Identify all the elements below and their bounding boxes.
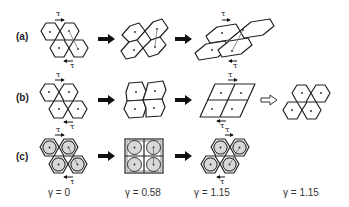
row-c-stage-0-hex-disk-cluster (40, 139, 87, 173)
row-c-stage-2-top-stress: τ (225, 125, 233, 135)
row-a-stage-2-top-stress: τ (221, 9, 230, 20)
arrow-right (175, 151, 192, 161)
row-b-stage-3-recovered-hex-cluster (283, 85, 330, 119)
arrow-right (175, 95, 192, 105)
arrow-right (175, 34, 192, 44)
row-label-a: (a) (16, 31, 28, 42)
strain-label-stage-0: γ = 0 (48, 187, 70, 198)
tau-label: τ (56, 125, 61, 134)
row-b-stage-0-hex-cluster (40, 84, 87, 118)
row-label-c: (c) (16, 151, 28, 162)
tau-label: τ (221, 9, 226, 18)
tau-label: τ (56, 70, 61, 79)
row-label-b: (b) (16, 92, 29, 103)
tau-label: τ (70, 177, 75, 186)
row-a-stage-1-sheared-cluster (121, 19, 168, 59)
row-c-stage-2-hex-disk-cluster (201, 139, 249, 173)
row-a-stage-0-bottom-stress: τ (64, 61, 75, 70)
row-b-stage-0-bottom-stress: τ (64, 122, 75, 131)
shear-deformation-diagram: (a) (b) (c) τ τ (0, 0, 349, 207)
row-a-stage-2-bottom-stress: τ (229, 61, 238, 70)
arrow-right (98, 95, 115, 105)
row-b-stage-2-rhombic-lattice (200, 84, 255, 117)
arrow-right (98, 34, 115, 44)
tau-label: τ (56, 9, 61, 18)
row-c-stage-1-square-disk-cluster (125, 139, 163, 173)
tau-label: τ (220, 177, 225, 186)
row-c-stage-0-bottom-stress: τ (64, 177, 75, 186)
row-b-stage-1-sheared-cluster (124, 81, 166, 118)
arrow-right (98, 151, 115, 161)
tau-label: τ (225, 125, 230, 134)
tau-label: τ (228, 70, 233, 79)
row-b-stage-2-top-stress: τ (228, 70, 237, 80)
row-a-stage-0-top-stress: τ (55, 9, 64, 20)
strain-label-stage-3: γ = 1.15 (283, 187, 319, 198)
row-b-stage-0-top-stress: τ (55, 70, 64, 80)
tau-label: τ (233, 61, 238, 70)
strain-label-stage-1: γ = 0.58 (125, 187, 161, 198)
hollow-arrow-right (261, 95, 277, 105)
tau-label: τ (70, 122, 75, 131)
row-a-stage-2-sheared-cluster (195, 19, 274, 60)
strain-label-stage-2: γ = 1.15 (194, 187, 230, 198)
row-c-stage-0-top-stress: τ (55, 125, 64, 135)
tau-label: τ (70, 61, 75, 70)
row-c-stage-2-bottom-stress: τ (217, 177, 225, 186)
row-a-stage-0-hex-cluster (41, 23, 88, 57)
